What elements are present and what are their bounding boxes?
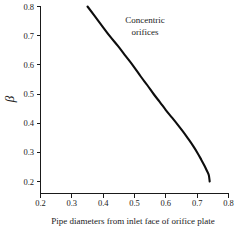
x-tick-label: 0.2: [35, 198, 46, 208]
x-tick-label: 0.6: [160, 198, 171, 208]
x-axis-ticks: [41, 194, 229, 198]
y-axis-ticks: [37, 7, 41, 182]
y-tick-label: 0.4: [23, 118, 34, 128]
x-axis-title: Pipe diameters from inlet face of orific…: [51, 216, 215, 226]
y-tick-label: 0.7: [23, 31, 34, 41]
y-axis-tick-labels: 0.8 0.7 0.6 0.5 0.4 0.3 0.2: [23, 2, 34, 187]
annotation-line-1: Concentric: [125, 15, 165, 25]
x-tick-label: 0.7: [192, 198, 203, 208]
x-tick-label: 0.3: [66, 198, 77, 208]
x-tick-label: 0.4: [98, 198, 109, 208]
annotation-line-2: orifices: [132, 27, 159, 37]
y-tick-label: 0.3: [23, 147, 34, 157]
y-tick-label: 0.2: [23, 177, 34, 187]
chart-plot-area: 0.8 0.7 0.6 0.5 0.4 0.3 0.2 0.2 0.3 0.4 …: [0, 0, 240, 236]
y-tick-label: 0.6: [23, 60, 34, 70]
y-tick-label: 0.8: [23, 2, 34, 12]
y-tick-label: 0.5: [23, 89, 34, 99]
x-tick-label: 0.5: [129, 198, 140, 208]
chart-figure: 0.8 0.7 0.6 0.5 0.4 0.3 0.2 0.2 0.3 0.4 …: [0, 0, 240, 236]
concentric-orifices-annotation: Concentric orifices: [125, 15, 165, 37]
x-tick-label: 0.8: [223, 198, 234, 208]
x-axis-tick-labels: 0.2 0.3 0.4 0.5 0.6 0.7 0.8: [35, 198, 234, 208]
y-axis-title-beta: β: [2, 95, 17, 103]
